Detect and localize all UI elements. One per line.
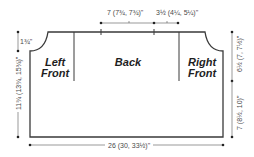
garment-outline: [30, 32, 223, 137]
bottom-width-measure: 26 (30, 33½)": [105, 142, 153, 149]
knitting-schematic: Left Front Back Right Front 7 (7¾, 7¾)" …: [0, 0, 254, 157]
dim-dot: [29, 144, 32, 147]
dim-dot: [17, 136, 20, 139]
top-shoulder-measure: 3½ (4¼, 5¼)": [156, 9, 198, 16]
right-front-label: Right Front: [184, 57, 220, 79]
back-label: Back: [108, 57, 148, 68]
dim-dot: [17, 31, 20, 34]
left-front-label-line2: Front: [40, 68, 70, 79]
right-front-label-line2: Front: [184, 68, 220, 79]
dim-dot: [153, 22, 156, 25]
left-front-label: Left Front: [40, 57, 70, 79]
dim-dot: [100, 22, 103, 25]
left-height-measure: 11¾ (13¾, 15¾)": [15, 55, 22, 112]
top-back-neck-measure: 7 (7¾, 7¾)": [107, 9, 143, 16]
right-armhole-measure: 6½ (7, 7½)": [236, 34, 243, 74]
dim-dot: [17, 50, 20, 53]
dim-dot: [177, 22, 180, 25]
dim-dot: [222, 144, 225, 147]
dim-dot: [231, 136, 234, 139]
right-lower-measure: 7 (8½, 10)": [236, 94, 243, 132]
left-neck-drop-measure: 1¾": [20, 38, 32, 45]
dim-dot: [231, 31, 234, 34]
